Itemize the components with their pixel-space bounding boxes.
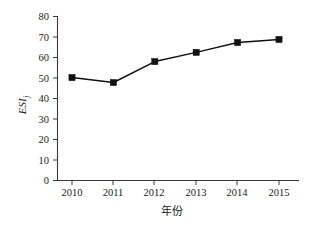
y-tick-label: 20 [39,134,50,145]
y-tick-label: 80 [39,11,50,22]
data-point-marker [110,79,116,85]
x-tick-label: 2012 [144,187,165,198]
y-tick-label: 40 [39,93,50,104]
x-tick-label: 2010 [62,187,83,198]
data-point-marker [276,36,282,42]
x-tick-label: 2014 [227,187,249,198]
chart-figure: 80 70 60 50 40 30 20 10 0 2010 2011 2012… [0,0,311,227]
y-tick-label: 70 [39,32,50,43]
data-point-marker [69,74,75,80]
y-axis-title-text: ESI [16,97,28,115]
y-tick-label: 50 [39,73,50,84]
data-point-marker [152,59,158,65]
x-tick-label: 2015 [269,187,290,198]
y-axis-tick-labels: 80 70 60 50 40 30 20 10 0 [39,11,50,186]
y-tick-label: 60 [39,52,50,63]
y-axis-title-subscript: j [22,96,31,99]
data-point-marker [193,49,199,55]
x-tick-label: 2011 [103,187,124,198]
y-tick-label: 0 [44,175,49,186]
data-point-marker [235,39,241,45]
y-tick-label: 10 [39,155,50,166]
line-chart: 80 70 60 50 40 30 20 10 0 2010 2011 2012… [0,0,311,227]
x-axis-title: 年份 [161,204,183,218]
x-tick-label: 2013 [186,187,207,198]
y-tick-label: 30 [39,114,50,125]
